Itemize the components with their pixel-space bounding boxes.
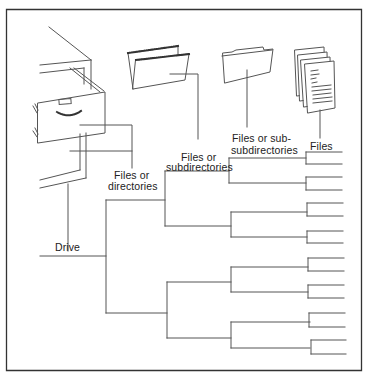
pages-icon	[295, 47, 335, 113]
file-system-hierarchy-diagram: Drive Files or directories Files or subd…	[0, 0, 367, 375]
tree-branches	[40, 152, 346, 354]
hanging-folder-icon	[128, 46, 189, 89]
file-cabinet-icon	[33, 27, 105, 188]
label-level1-line2: directories	[108, 181, 158, 192]
diagram-canvas	[0, 0, 367, 375]
label-level3-line2: subdirectories	[231, 145, 298, 156]
label-level2-line2: subdirectories	[166, 162, 233, 173]
label-level3-line1: Files or sub-	[232, 133, 291, 144]
label-level4: Files	[310, 141, 333, 152]
label-drive: Drive	[55, 242, 80, 253]
